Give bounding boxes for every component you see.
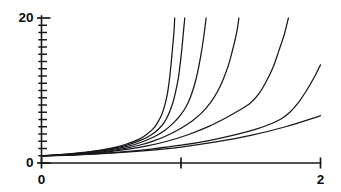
y-axis-group: 020 bbox=[18, 10, 50, 170]
curve-6 bbox=[42, 65, 321, 156]
chart-figure: 020 02 bbox=[0, 0, 341, 192]
curve-7 bbox=[42, 116, 321, 156]
x-tick-label-2: 2 bbox=[317, 172, 325, 187]
y-axis-tick-labels: 020 bbox=[18, 10, 33, 170]
x-axis-tick-labels: 02 bbox=[38, 172, 325, 187]
plot-canvas: 020 02 bbox=[0, 0, 341, 192]
curve-2 bbox=[42, 18, 185, 156]
x-tick-label-0: 0 bbox=[38, 172, 46, 187]
y-tick-label-0: 0 bbox=[26, 155, 34, 170]
curve-3 bbox=[42, 18, 207, 156]
data-curves-group bbox=[42, 18, 321, 156]
curve-4 bbox=[42, 18, 239, 156]
curve-1 bbox=[42, 18, 175, 156]
y-axis-ticks bbox=[37, 18, 51, 163]
y-tick-label-20: 20 bbox=[18, 10, 33, 25]
x-axis-group: 02 bbox=[38, 158, 325, 187]
